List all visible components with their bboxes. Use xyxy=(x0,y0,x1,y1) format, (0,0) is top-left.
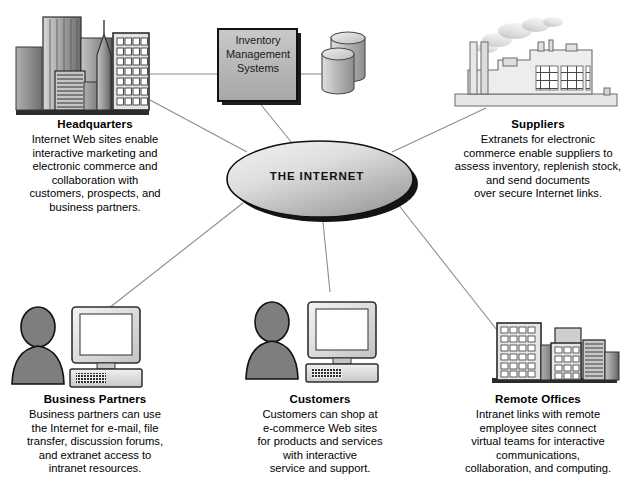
suppliers-description: Extranets for electronic commerce enable… xyxy=(444,133,632,201)
ims-line-1: Inventory xyxy=(219,33,297,47)
person-computer-icon-customers xyxy=(246,302,378,382)
person-computer-icon-partners xyxy=(12,307,142,387)
desc-line: over secure Internet links. xyxy=(474,187,602,199)
line-ims-to-internet xyxy=(258,101,292,143)
desc-line: the Internet for e-mail, file xyxy=(32,422,159,434)
desc-line: interactive marketing and xyxy=(33,147,158,159)
desc-line: employee sites connect xyxy=(480,422,597,434)
desc-line: transfer, discussion forums, xyxy=(27,435,163,447)
desc-line: communications, xyxy=(496,449,580,461)
desc-line: Business partners can use xyxy=(29,408,161,420)
desc-line: commerce enable suppliers to xyxy=(463,147,612,159)
remote-offices-title: Remote Offices xyxy=(444,392,632,406)
ims-line-2: Management xyxy=(219,47,297,61)
node-label-suppliers: Suppliers Extranets for electronic comme… xyxy=(444,117,632,201)
desc-line: business partners. xyxy=(49,201,140,213)
desc-line: customers, prospects, and xyxy=(29,187,160,199)
node-label-business-partners: Business Partners Business partners can … xyxy=(2,392,188,476)
node-label-remote-offices: Remote Offices Intranet links with remot… xyxy=(444,392,632,476)
suppliers-title: Suppliers xyxy=(444,117,632,131)
office-buildings-icon xyxy=(492,323,619,383)
database-cylinders-icon xyxy=(322,32,365,94)
line-partners-to-internet xyxy=(104,203,243,312)
customers-description: Customers can shop at e-commerce Web sit… xyxy=(224,408,416,476)
diagram-canvas: Inventory Management Systems THE INTERNE… xyxy=(0,0,633,488)
business-partners-title: Business Partners xyxy=(2,392,188,406)
desc-line: Internet Web sites enable xyxy=(32,133,159,145)
node-label-customers: Customers Customers can shop at e-commer… xyxy=(224,392,416,476)
node-label-headquarters: Headquarters Internet Web sites enable i… xyxy=(2,117,188,215)
headquarters-title: Headquarters xyxy=(2,117,188,131)
factory-icon xyxy=(455,17,617,106)
desc-line: Customers can shop at xyxy=(262,408,377,420)
business-partners-description: Business partners can use the Internet f… xyxy=(2,408,188,476)
desc-line: e-commerce Web sites xyxy=(263,422,377,434)
desc-line: collaboration, and computing. xyxy=(465,462,611,474)
customers-title: Customers xyxy=(224,392,416,406)
desc-line: intranet resources. xyxy=(49,462,142,474)
desc-line: virtual teams for interactive xyxy=(471,435,605,447)
desc-line: Extranets for electronic xyxy=(481,133,595,145)
person-silhouette xyxy=(246,302,298,379)
desc-line: electronic commerce and xyxy=(33,160,158,172)
internet-label: THE INTERNET xyxy=(235,170,399,182)
headquarters-description: Internet Web sites enable interactive ma… xyxy=(2,133,188,215)
line-customers-to-internet xyxy=(322,212,330,292)
person-silhouette xyxy=(12,307,64,384)
desktop-computer xyxy=(70,307,142,387)
desktop-computer xyxy=(306,302,378,382)
line-remote-to-internet xyxy=(397,203,497,330)
desc-line: service and support. xyxy=(270,462,371,474)
desc-line: and extranet access to xyxy=(39,449,152,461)
remote-offices-description: Intranet links with remote employee site… xyxy=(444,408,632,476)
ims-line-3: Systems xyxy=(219,61,297,75)
city-skyline-icon xyxy=(16,17,149,115)
desc-line: and send documents xyxy=(486,174,590,186)
desc-line: assess inventory, replenish stock, xyxy=(455,160,621,172)
database-cylinder-front xyxy=(322,48,354,94)
desc-line: collaboration with xyxy=(52,174,138,186)
inventory-management-label: Inventory Management Systems xyxy=(219,33,297,75)
desc-line: with interactive xyxy=(283,449,357,461)
desc-line: for products and services xyxy=(258,435,383,447)
desc-line: Intranet links with remote xyxy=(476,408,600,420)
